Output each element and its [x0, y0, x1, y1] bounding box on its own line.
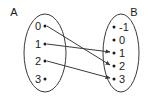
- mapping-arrow: [47, 61, 110, 78]
- set-b-element-dot: [113, 26, 116, 29]
- set-a-element-label: 2: [35, 55, 41, 67]
- diagram-svg: A B 0 1 2 3 -1 0 1 2 3: [0, 0, 150, 99]
- set-b-element-label: 2: [119, 60, 125, 72]
- set-a-element-label: 0: [35, 20, 41, 32]
- set-a-element-dot: [44, 60, 47, 63]
- set-b-element-label: 0: [119, 34, 125, 46]
- set-b-element-label: -1: [119, 21, 129, 33]
- set-a-element-dot: [44, 25, 47, 28]
- set-a-element-dot: [44, 78, 47, 81]
- set-b-element-dot: [113, 78, 116, 81]
- mapping-diagram-canvas: A B 0 1 2 3 -1 0 1 2 3: [0, 0, 150, 99]
- set-b-label: B: [130, 6, 137, 18]
- set-a-label: A: [10, 6, 18, 18]
- set-b-element-dot: [113, 52, 116, 55]
- set-b-element-dot: [113, 65, 116, 68]
- set-a-element-label: 1: [35, 38, 41, 50]
- set-a-element-dot: [44, 43, 47, 46]
- set-b-element-label: 3: [119, 73, 125, 85]
- set-a-element-label: 3: [35, 73, 41, 85]
- set-b-element-dot: [113, 39, 116, 42]
- set-b-element-label: 1: [119, 47, 125, 59]
